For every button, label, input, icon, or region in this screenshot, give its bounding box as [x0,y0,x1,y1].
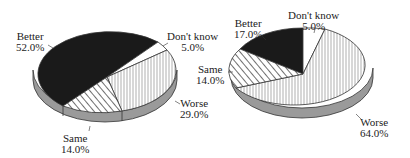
left-label-same: Same 14.0% [61,133,89,155]
right-label-worse: Worse 64.0% [360,117,388,139]
right-label-dont-know: Don't know 5.0% [288,10,339,32]
left-pie [33,32,180,131]
left-label-better: Better 52.0% [16,31,44,53]
left-label-dont-know: Don't know 5.0% [167,31,218,53]
left-label-worse: Worse 29.0% [180,98,208,120]
right-pie [228,28,373,119]
right-label-same: Same 14.0% [196,64,224,86]
right-label-better: Better 17.0% [234,18,262,40]
